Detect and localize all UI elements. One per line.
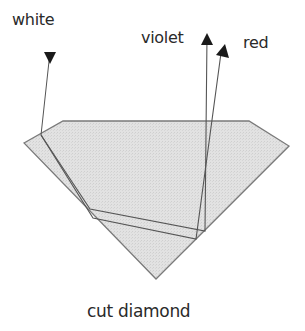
violet-arrowhead-icon: [201, 33, 213, 45]
caption: cut diamond: [87, 301, 190, 321]
white-arrowhead-icon: [44, 52, 56, 64]
red-label: red: [243, 33, 268, 52]
violet-label: violet: [141, 28, 183, 47]
white-label: white: [12, 10, 54, 29]
red-arrowhead-icon: [216, 44, 229, 58]
diamond-shape: [24, 121, 289, 279]
white-ray-incoming: [41, 52, 50, 135]
